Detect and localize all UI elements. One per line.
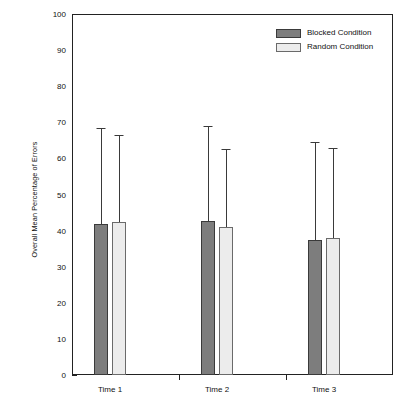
x-axis-tick <box>286 375 287 380</box>
legend-swatch-blocked-icon <box>276 29 301 38</box>
error-bar-line <box>101 128 102 224</box>
error-bar-line <box>208 126 209 221</box>
error-bar-line <box>333 148 334 238</box>
bar-random-time-3 <box>326 238 340 375</box>
legend-label-random: Random Condition <box>307 42 373 52</box>
y-axis-tick-label: 30 <box>28 262 66 271</box>
error-bar-line <box>119 135 120 222</box>
y-axis-tick-label: 0 <box>28 371 66 380</box>
bar-random-time-2 <box>219 227 233 375</box>
x-axis-tick-label: Time 2 <box>172 385 262 394</box>
error-bar-cap <box>222 149 231 150</box>
bar-random-time-1 <box>112 222 126 375</box>
legend-swatch-random-icon <box>276 43 301 52</box>
error-bar-cap <box>329 148 338 149</box>
y-axis-title: Overall Mean Percentage of Errors <box>30 80 39 320</box>
error-bar-cap <box>97 128 106 129</box>
x-axis-tick <box>179 375 180 380</box>
y-axis-tick-label: 40 <box>28 226 66 235</box>
error-bar-line <box>226 149 227 227</box>
y-axis-tick-label: 70 <box>28 118 66 127</box>
y-axis-tick-label: 90 <box>28 46 66 55</box>
bar-blocked-time-1 <box>94 224 108 375</box>
y-axis-tick-label: 80 <box>28 82 66 91</box>
x-axis-tick-label: Time 3 <box>279 385 369 394</box>
error-bar-cap <box>311 142 320 143</box>
x-axis-tick-label: Time 1 <box>65 385 155 394</box>
bar-blocked-time-3 <box>308 240 322 375</box>
legend-item-random: Random Condition <box>276 41 373 53</box>
legend-label-blocked: Blocked Condition <box>307 28 371 38</box>
bar-chart: Overall Mean Percentage of Errors 010203… <box>0 0 412 410</box>
error-bar-line <box>315 142 316 240</box>
y-axis-tick <box>72 375 77 376</box>
chart-legend: Blocked Condition Random Condition <box>276 27 373 55</box>
error-bar-cap <box>115 135 124 136</box>
y-axis-tick-label: 20 <box>28 298 66 307</box>
y-axis-tick-label: 100 <box>28 10 66 19</box>
y-axis-tick-label: 60 <box>28 154 66 163</box>
y-axis-tick-label: 50 <box>28 190 66 199</box>
bar-blocked-time-2 <box>201 221 215 375</box>
legend-item-blocked: Blocked Condition <box>276 27 373 39</box>
y-axis-tick-label: 10 <box>28 334 66 343</box>
error-bar-cap <box>204 126 213 127</box>
